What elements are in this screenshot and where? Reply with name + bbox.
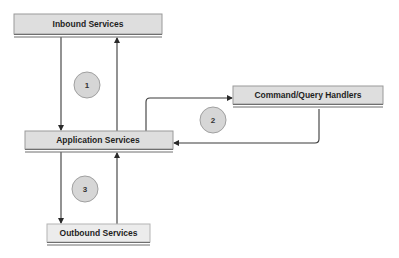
step-marker-3: 3 (72, 176, 98, 202)
architecture-diagram: Inbound Services Application Services Co… (0, 0, 399, 258)
node-label: Outbound Services (60, 228, 138, 238)
node-application-services: Application Services (25, 131, 173, 152)
edge-command-query-to-application (174, 109, 319, 143)
node-label: Inbound Services (53, 19, 124, 29)
svg-text:2: 2 (211, 116, 216, 125)
node-label: Command/Query Handlers (254, 90, 361, 100)
step-marker-1: 1 (74, 72, 100, 98)
node-label: Application Services (56, 135, 140, 145)
svg-text:3: 3 (83, 185, 88, 194)
node-outbound-services: Outbound Services (47, 224, 150, 245)
node-command-query-handlers: Command/Query Handlers (233, 86, 383, 107)
step-marker-2: 2 (200, 107, 226, 133)
svg-text:1: 1 (85, 81, 90, 90)
node-inbound-services: Inbound Services (14, 14, 162, 37)
